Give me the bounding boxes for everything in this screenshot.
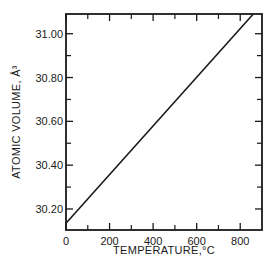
y-tick-label: 30.20 bbox=[35, 203, 63, 215]
y-tick-label: 30.40 bbox=[35, 159, 63, 171]
y-tick-label: 31.00 bbox=[35, 28, 63, 40]
x-tick-label: 800 bbox=[231, 235, 249, 247]
y-axis-title: ATOMIC VOLUME, Å³ bbox=[10, 65, 22, 179]
chart: 0200400600800 30.2030.4030.6030.8031.00 … bbox=[0, 0, 277, 269]
y-tick-label: 30.60 bbox=[35, 115, 63, 127]
y-axis: 30.2030.4030.6030.8031.00 bbox=[35, 28, 262, 215]
plot-area bbox=[66, 14, 262, 230]
data-line bbox=[66, 14, 253, 223]
x-axis-title: TEMPERATURE,°C bbox=[113, 244, 215, 256]
plot-frame bbox=[66, 14, 262, 230]
x-tick-label: 0 bbox=[63, 235, 69, 247]
y-tick-label: 30.80 bbox=[35, 72, 63, 84]
